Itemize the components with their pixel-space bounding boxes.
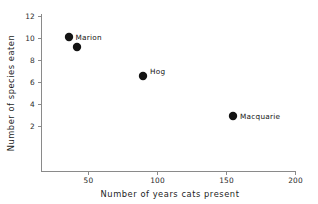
data-point-label-macquarie: Macquarie: [240, 112, 281, 121]
data-point-label-marion: Marion: [76, 33, 102, 42]
data-point-marion: [65, 33, 73, 41]
y-tick-label: 6: [30, 78, 35, 87]
y-tick-label: 2: [30, 122, 35, 131]
data-point-secondary: [73, 43, 81, 51]
y-tick-label: 4: [30, 100, 35, 109]
y-tick-label: 10: [25, 34, 35, 43]
y-tick-label: 12: [25, 12, 35, 21]
x-tick-label: 150: [219, 176, 234, 185]
y-axis-title: Number of species eaten: [6, 35, 16, 152]
x-tick-label: 100: [150, 176, 165, 185]
scatter-plot-figure: 12 10 8 6 4 2 50 100 150 200 Number of y…: [0, 0, 318, 204]
x-tick-label: 50: [84, 176, 94, 185]
x-tick-label: 200: [288, 176, 303, 185]
y-tick-label: 8: [30, 56, 35, 65]
x-axis-title: Number of years cats present: [101, 189, 240, 199]
data-point-hog: [139, 72, 147, 80]
chart-background: [0, 0, 318, 204]
data-point-label-hog: Hog: [150, 67, 165, 76]
data-point-macquarie: [229, 112, 237, 120]
chart-canvas: 12 10 8 6 4 2 50 100 150 200 Number of y…: [0, 0, 318, 204]
